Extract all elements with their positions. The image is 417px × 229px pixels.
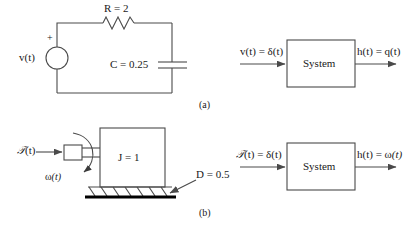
- damper-label: D = 0.5: [196, 169, 229, 180]
- wire-top-left: [57, 23, 103, 47]
- torque-script-symbol: 𝒯: [17, 144, 25, 156]
- source-label: v(t): [19, 52, 35, 63]
- omega-label: ω(t): [45, 172, 61, 182]
- hatch-1: [89, 187, 95, 196]
- rc-circuit-icon: [46, 17, 187, 93]
- system-box-label-b: System: [303, 161, 335, 172]
- omega-label-rest: (t): [52, 171, 61, 182]
- input-b-label-rest: (t) = δ(t): [244, 148, 282, 160]
- output-b-head: h(t) = ω: [357, 148, 392, 160]
- caption-a: (a): [199, 100, 210, 110]
- hatch-3: [113, 187, 119, 196]
- capacitor-label: C = 0.25: [110, 59, 148, 70]
- input-label-b: 𝒯(t) = δ(t): [236, 149, 282, 160]
- caption-b: (b): [199, 208, 211, 218]
- zigzag-resistor-icon: [103, 17, 134, 29]
- output-label-b: h(t) = ω(t): [357, 149, 402, 160]
- damper-pointer-icon: [170, 180, 196, 193]
- figure-container: v(t) + R = 2 C = 0.25 v(t) = δ(t) System…: [0, 0, 417, 229]
- shaft-rectangle-icon: [64, 145, 82, 160]
- input-label-a: v(t) = δ(t): [240, 46, 283, 57]
- hatch-2: [101, 187, 107, 196]
- input-b-script-symbol: 𝒯: [236, 148, 244, 160]
- figure-vector-layer: [0, 0, 417, 229]
- resistor-label: R = 2: [104, 3, 129, 14]
- hatch-5: [137, 187, 143, 196]
- voltage-source-circle-icon: [46, 47, 68, 69]
- hatch-7: [161, 187, 167, 196]
- output-b-rest: (t): [392, 148, 402, 160]
- mechanical-system-icon: [36, 128, 196, 197]
- omega-symbol: ω: [45, 171, 52, 182]
- hatch-4: [125, 187, 131, 196]
- torque-label-rest: (t): [25, 144, 35, 156]
- torque-label: 𝒯(t): [17, 145, 35, 156]
- hatch-6: [149, 187, 155, 196]
- inertia-label: J = 1: [118, 152, 139, 163]
- curved-rotation-arrow-icon: [73, 133, 93, 172]
- output-label-a: h(t) = q(t): [357, 46, 400, 57]
- polarity-plus-label: +: [47, 33, 53, 43]
- system-box-label-a: System: [303, 58, 335, 69]
